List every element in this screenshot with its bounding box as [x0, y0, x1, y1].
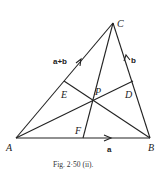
vector-label-a-plus-b: a+b [53, 57, 67, 66]
label-f: F [74, 125, 82, 136]
label-e: E [60, 89, 67, 100]
vector-label-b: b [131, 56, 136, 65]
label-c: C [117, 18, 124, 29]
label-b: B [148, 142, 154, 153]
triangle-diagram: A B C D E F P a b a+b Fig. 2·50 (ii). [0, 0, 162, 175]
arrow-ab-icon [76, 59, 81, 66]
label-p: P [94, 86, 101, 97]
label-a: A [5, 142, 13, 153]
label-d: D [124, 89, 133, 100]
vector-label-a: a [107, 145, 112, 154]
figure-caption: Fig. 2·50 (ii). [53, 160, 94, 169]
side-bc [113, 23, 150, 138]
